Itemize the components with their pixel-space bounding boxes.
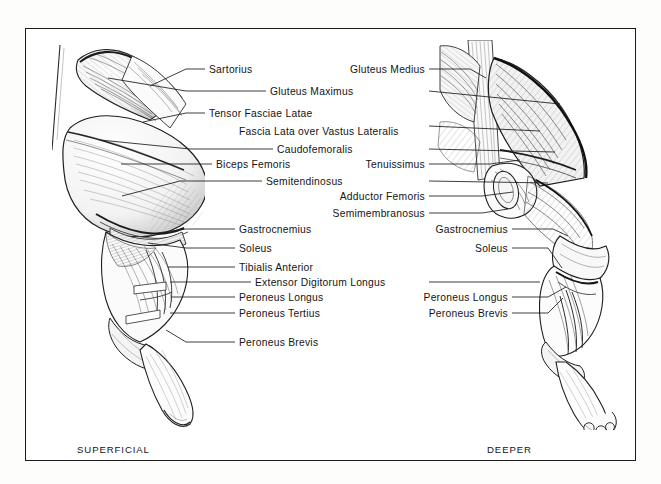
label-gastrocnemius: Gastrocnemius [239,224,312,235]
label-caudofemoralis: Caudofemoralis [277,144,353,155]
label-tensor-fasciae-latae: Tensor Fasciae Latae [209,108,312,119]
label-tibialis-anterior: Tibialis Anterior [239,262,313,273]
caption-superficial: SUPERFICIAL [77,444,150,455]
label-peroneus-brevis: Peroneus Brevis [239,337,318,348]
label-adductor-femoris: Adductor Femoris [340,191,425,202]
label-semitendinosus: Semitendinosus [266,176,343,187]
label-soleus: Soleus [239,243,272,254]
label-biceps-femoris: Biceps Femoris [216,159,290,170]
label-extensor-digitorum-longus: Extensor Digitorum Longus [255,277,385,288]
label-gastrocnemius: Gastrocnemius [436,224,509,235]
label-sartorius: Sartorius [209,64,252,75]
label-tenuissimus: Tenuissimus [366,159,425,170]
label-semimembranosus: Semimembranosus [333,208,425,219]
caption-deeper: DEEPER [487,444,532,455]
label-peroneus-longus: Peroneus Longus [424,292,508,303]
label-gluteus-medius: Gluteus Medius [350,64,425,75]
label-peroneus-brevis: Peroneus Brevis [429,308,508,319]
label-soleus: Soleus [475,243,508,254]
label-peroneus-longus: Peroneus Longus [239,292,323,303]
label-fascia-lata-over-vastus-lateralis: Fascia Lata over Vastus Lateralis [239,126,399,137]
anatomy-plate: SartoriusGluteus MaximusTensor Fasciae L… [0,0,661,484]
label-gluteus-maximus: Gluteus Maximus [270,86,353,97]
label-peroneus-tertius: Peroneus Tertius [239,308,320,319]
